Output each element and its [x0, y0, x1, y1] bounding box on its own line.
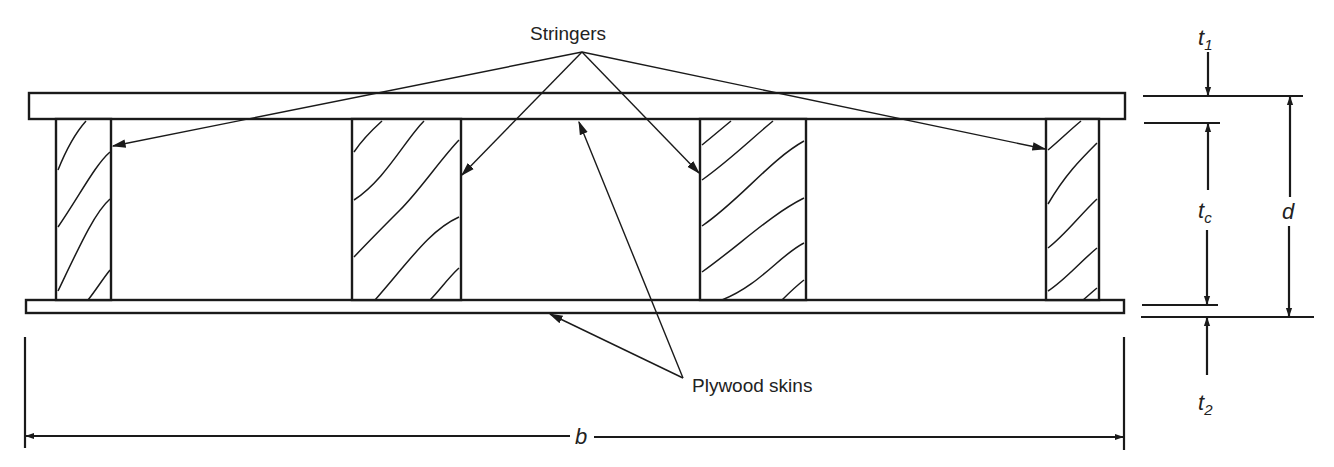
plywood-skins-leader-lines: [550, 122, 683, 378]
svg-text:t2: t2: [1198, 390, 1213, 418]
stressed-skin-panel-diagram: Stringers Plywood skins t1 tc d t2: [0, 0, 1334, 467]
stringer-1: [56, 119, 111, 300]
bottom-plywood-skin: [26, 300, 1124, 313]
plywood-skins-label: Plywood skins: [692, 375, 812, 396]
svg-text:d: d: [1282, 199, 1295, 224]
stringers-label: Stringers: [530, 23, 606, 44]
dimension-b: b: [25, 337, 1124, 450]
dimension-t2: t2: [1198, 318, 1213, 418]
svg-text:t1: t1: [1198, 25, 1212, 53]
top-plywood-skin: [29, 93, 1125, 119]
dimension-tc: tc: [1198, 124, 1212, 304]
dimension-d: d: [1282, 97, 1295, 316]
stringer-3: [700, 119, 806, 300]
stringer-4: [1046, 119, 1099, 300]
svg-text:b: b: [575, 424, 587, 449]
dimension-t1: t1: [1198, 25, 1212, 95]
svg-text:tc: tc: [1198, 198, 1212, 226]
stringer-2: [352, 119, 461, 300]
